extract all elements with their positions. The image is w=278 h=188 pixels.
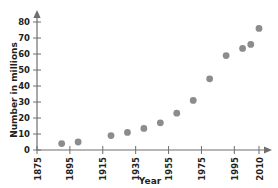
data-point — [256, 25, 263, 32]
x-tick-label: 2010 — [255, 157, 265, 181]
x-tick-label: 1995 — [230, 157, 240, 181]
data-point — [223, 52, 230, 59]
data-point-group — [58, 25, 262, 147]
data-point — [108, 132, 115, 139]
data-point — [75, 139, 82, 146]
x-tick-label: 1955 — [164, 157, 174, 181]
data-point — [247, 41, 254, 48]
x-tick-label: 1895 — [65, 157, 75, 181]
data-point — [140, 125, 147, 132]
x-tick-label: 1975 — [197, 157, 207, 181]
y-tick-label: 80 — [18, 17, 30, 27]
chart-canvas: Number in millions Year 0102030405060708… — [0, 0, 278, 188]
y-tick-label: 20 — [18, 113, 30, 123]
x-tick-label: 1935 — [131, 157, 141, 181]
y-tick-label: 50 — [18, 65, 30, 75]
data-point — [157, 119, 164, 126]
y-tick-label: 60 — [18, 49, 30, 59]
y-tick-label: 70 — [18, 33, 30, 43]
data-point — [206, 75, 213, 82]
scatter-chart: Number in millions Year 0102030405060708… — [0, 0, 278, 188]
data-point — [190, 97, 197, 104]
x-tick-label: 1915 — [98, 157, 108, 181]
y-tick-label: 30 — [18, 97, 30, 107]
x-axis-title: Year — [138, 176, 162, 186]
y-tick-label: 0 — [24, 145, 30, 155]
x-axis-arrowhead — [264, 146, 272, 153]
x-tick-label: 1875 — [33, 157, 43, 181]
y-tick-label: 10 — [18, 129, 30, 139]
data-point — [173, 110, 180, 117]
y-tick-label: 40 — [18, 81, 30, 91]
y-axis-arrowhead — [33, 10, 40, 18]
data-point — [239, 45, 246, 52]
data-point — [124, 129, 131, 136]
data-point — [58, 140, 65, 147]
axis-lines — [33, 10, 272, 154]
